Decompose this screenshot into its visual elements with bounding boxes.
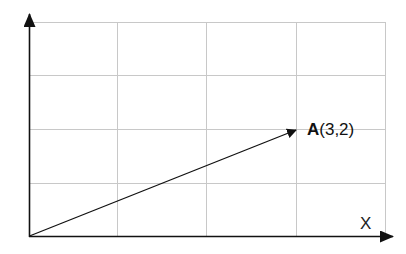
x-axis-label: X (360, 215, 371, 232)
point-coords: (3,2) (319, 120, 354, 139)
point-a-label: A(3,2) (307, 121, 354, 138)
point-name: A (307, 120, 319, 139)
